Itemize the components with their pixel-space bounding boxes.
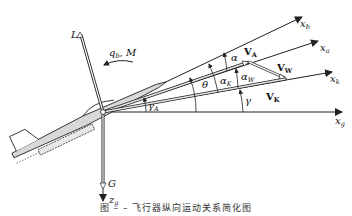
x-b-label: xb [300, 18, 310, 31]
alpha-w-label: αW [241, 71, 256, 84]
aircraft [5, 66, 171, 166]
pitch-moment-label: qb, M [109, 47, 137, 60]
alpha-w-arc [236, 69, 238, 88]
lift-label: L [70, 29, 78, 40]
alpha-label: α [231, 52, 238, 63]
diagram-canvas: L qb, M G zg xb xa xk xg VA VW VK α αW α… [0, 0, 352, 216]
vk-label: VK [265, 91, 280, 104]
va-label: VA [243, 46, 258, 59]
alpha-k-arc [209, 64, 218, 92]
figure-caption: 图 – – 飞行器纵向运动关系简化图 [0, 201, 352, 214]
gamma-arc [240, 90, 243, 112]
theta-label: θ [202, 79, 208, 90]
alpha-arc [224, 53, 227, 71]
gamma-label: γ [245, 95, 251, 106]
gravity-label: G [108, 178, 116, 189]
pitch-moment-arrow [104, 61, 133, 65]
x-k-label: xk [330, 73, 340, 86]
x-g-label: xg [335, 115, 345, 128]
alpha-k-label: αK [220, 75, 233, 88]
x-a-label: xa [320, 42, 330, 55]
vw-label: VW [276, 62, 293, 75]
